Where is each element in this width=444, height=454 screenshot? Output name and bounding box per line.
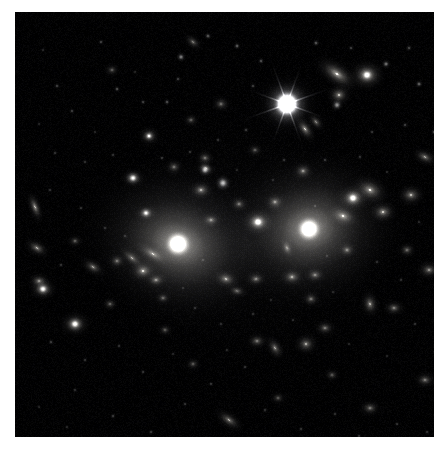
astronomical-image-frame — [15, 12, 434, 437]
screenshot-root — [0, 0, 444, 454]
deep-field-sky-canvas — [15, 12, 434, 437]
